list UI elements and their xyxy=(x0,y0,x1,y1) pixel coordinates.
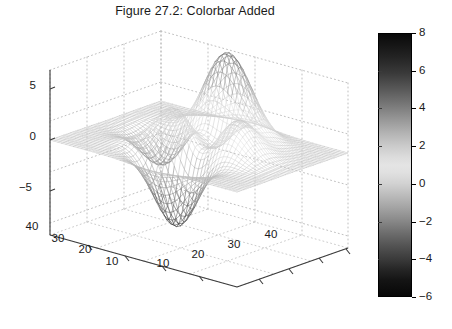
colorbar-tick-mark xyxy=(378,259,382,260)
colorbar-tick-mark xyxy=(412,71,416,72)
surface-plot-svg: 50−5 40302010 10203040 xyxy=(8,28,356,300)
z-axis-tick-label: 5 xyxy=(30,79,36,91)
grid-floor xyxy=(50,196,348,287)
colorbar-tick-label: 2 xyxy=(419,140,425,152)
colorbar-tick-mark xyxy=(412,108,416,109)
x-axis-tick-label: 30 xyxy=(228,238,241,250)
colorbar-tick-mark xyxy=(412,184,416,185)
colorbar-tick-label: 0 xyxy=(419,178,425,190)
colorbar-tick-mark xyxy=(412,146,416,147)
y-axis-tick-label: 30 xyxy=(52,232,65,244)
colorbar-tick-mark xyxy=(412,297,416,298)
y-axis-tick-label: 20 xyxy=(79,243,92,255)
colorbar-tick-label: 6 xyxy=(419,65,425,77)
colorbar-tick-mark xyxy=(378,146,382,147)
x-axis-tick-label: 40 xyxy=(265,228,278,240)
colorbar-tick-label: 4 xyxy=(419,103,425,115)
colorbar-tick-label: −6 xyxy=(419,291,432,303)
colorbar-tick-label: −4 xyxy=(419,254,432,266)
y-axis-tick-label: 40 xyxy=(26,220,39,232)
surface-plot-axes[interactable]: 50−5 40302010 10203040 xyxy=(8,28,356,300)
colorbar-tick-mark xyxy=(378,222,382,223)
z-axis-tick-label: 0 xyxy=(30,130,36,142)
colorbar-tick-label: 8 xyxy=(419,27,425,39)
colorbar-tick-mark xyxy=(378,108,382,109)
colorbar-tick-mark xyxy=(412,222,416,223)
colorbar-tick-mark xyxy=(412,33,416,34)
x-axis-tick-label: 10 xyxy=(157,257,170,269)
figure-title: Figure 27.2: Colorbar Added xyxy=(0,4,390,18)
colorbar-tick-mark xyxy=(378,71,382,72)
figure-container: Figure 27.2: Colorbar Added xyxy=(0,0,452,329)
z-axis-tick-labels: 50−5 xyxy=(19,79,36,193)
y-axis-tick-labels: 40302010 xyxy=(26,220,119,267)
colorbar-tick-mark xyxy=(378,184,382,185)
colorbar-tick-label: −2 xyxy=(419,216,432,228)
colorbar-gradient xyxy=(378,33,412,297)
x-axis-tick-labels: 10203040 xyxy=(157,228,278,269)
y-axis-tick-label: 10 xyxy=(106,255,119,267)
z-axis-tick-label: −5 xyxy=(19,181,32,193)
x-axis-tick-label: 20 xyxy=(192,248,205,260)
colorbar[interactable]: 86420−2−4−6 xyxy=(376,31,452,301)
peaks-wireframe-mesh xyxy=(50,53,348,227)
colorbar-tick-mark xyxy=(412,259,416,260)
